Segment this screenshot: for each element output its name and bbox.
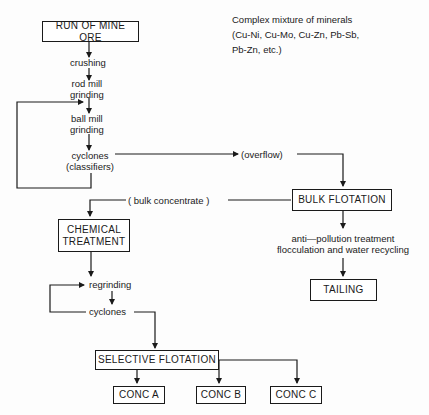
bulk-concentrate-label: ( bulk concentrate ) bbox=[128, 195, 209, 206]
ball-mill-step: ball mill grinding bbox=[70, 113, 104, 135]
mineral-note-line-1: Complex mixture of minerals bbox=[232, 12, 359, 27]
cyclones-step: cyclones bbox=[89, 306, 126, 317]
conc-c-box: CONC C bbox=[270, 386, 322, 404]
run-of-mine-ore-box: RUN OF MINE ORE bbox=[42, 21, 139, 42]
mineral-note: Complex mixture of minerals (Cu-Ni, Cu-M… bbox=[232, 12, 359, 57]
tailing-box: TAILING bbox=[310, 279, 377, 301]
cyclones-line-2: (classifiers) bbox=[66, 161, 114, 172]
flow-diagram: Complex mixture of minerals (Cu-Ni, Cu-M… bbox=[0, 0, 429, 415]
ball-mill-line-1: ball mill bbox=[70, 113, 104, 124]
selective-flotation-box: SELECTIVE FLOTATION bbox=[95, 350, 219, 370]
cyclones-classifiers-step: cyclones (classifiers) bbox=[66, 150, 114, 172]
chemical-line-2: TREATMENT bbox=[62, 236, 125, 248]
rod-mill-step: rod mill grinding bbox=[70, 78, 104, 100]
crushing-step: crushing bbox=[70, 57, 106, 68]
chemical-line-1: CHEMICAL bbox=[67, 224, 121, 236]
regrinding-step: regrinding bbox=[89, 279, 131, 290]
mineral-note-line-2: (Cu-Ni, Cu-Mo, Cu-Zn, Pb-Sb, bbox=[232, 27, 359, 42]
anti-pollution-line-1: anti—pollution treatment bbox=[268, 233, 418, 244]
anti-pollution-step: anti—pollution treatment flocculation an… bbox=[268, 233, 418, 255]
ball-mill-line-2: grinding bbox=[70, 124, 104, 135]
mineral-note-line-3: Pb-Zn, etc.) bbox=[232, 42, 359, 57]
conc-b-box: CONC B bbox=[196, 386, 246, 404]
overflow-label: (overflow) bbox=[241, 149, 283, 160]
cyclones-line-1: cyclones bbox=[66, 150, 114, 161]
conc-a-box: CONC A bbox=[113, 386, 165, 404]
chemical-treatment-box: CHEMICAL TREATMENT bbox=[58, 219, 130, 252]
bulk-flotation-box: BULK FLOTATION bbox=[292, 189, 392, 211]
rod-mill-line-1: rod mill bbox=[70, 78, 104, 89]
anti-pollution-line-2: flocculation and water recycling bbox=[268, 244, 418, 255]
rod-mill-line-2: grinding bbox=[70, 89, 104, 100]
